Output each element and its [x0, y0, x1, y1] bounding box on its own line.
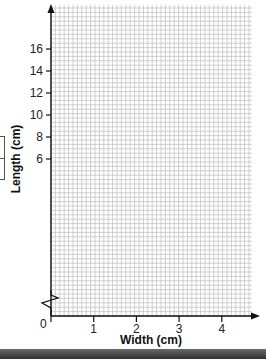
- y-ticks: 6810121416: [30, 42, 51, 166]
- y-axis-arrow-icon: [48, 4, 55, 13]
- y-tick-label: 6: [36, 152, 43, 166]
- side-table-fragment: [0, 136, 5, 180]
- y-tick-label: 16: [30, 42, 44, 56]
- y-tick-label: 8: [36, 130, 43, 144]
- y-tick-label: 10: [30, 108, 44, 122]
- x-tick-label: 4: [218, 322, 225, 336]
- bottom-bar: [0, 349, 266, 359]
- divider: [0, 158, 4, 159]
- x-tick-label: 1: [90, 322, 97, 336]
- grid: [51, 5, 252, 316]
- origin-label: 0: [40, 317, 47, 331]
- x-axis: [51, 313, 260, 320]
- y-tick-label: 14: [30, 64, 44, 78]
- y-axis: [48, 4, 55, 316]
- x-axis-arrow-icon: [251, 313, 260, 320]
- x-axis-title: Width (cm): [120, 333, 182, 347]
- graph-paper-chart: 6810121416 1234 0 Width (cm) Length (cm): [0, 0, 266, 349]
- y-tick-label: 12: [30, 86, 44, 100]
- y-axis-title: Length (cm): [9, 125, 23, 194]
